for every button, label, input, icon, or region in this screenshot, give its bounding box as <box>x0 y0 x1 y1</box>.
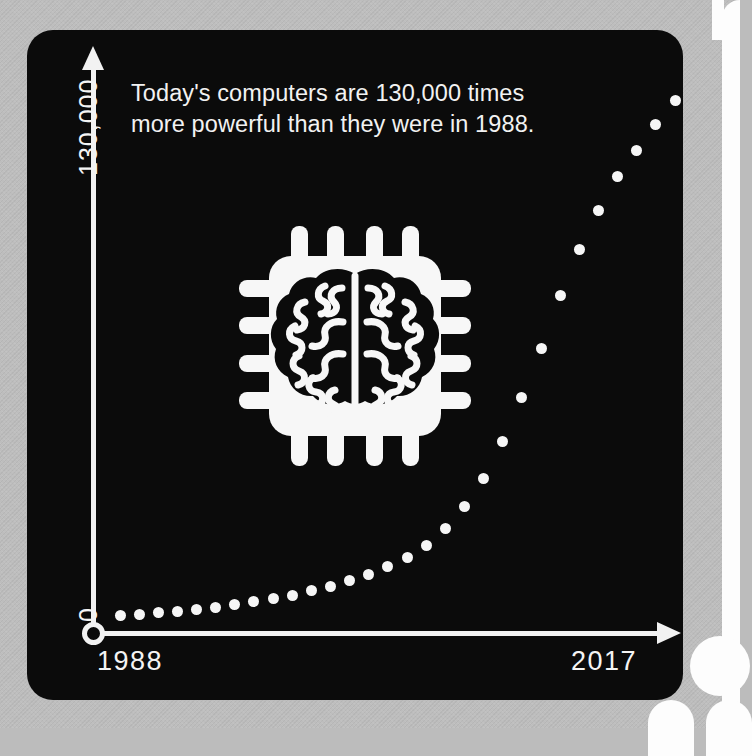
data-point <box>153 607 164 618</box>
decorative-blob-left <box>648 700 694 756</box>
data-point <box>612 171 623 182</box>
origin-circle-marker <box>82 622 105 645</box>
data-point <box>574 244 585 255</box>
data-point <box>497 436 508 447</box>
x-axis-end-label: 2017 <box>571 646 637 677</box>
data-point <box>593 205 604 216</box>
x-axis-line <box>93 631 665 636</box>
y-axis-arrow-icon <box>82 46 104 70</box>
data-point <box>115 610 126 621</box>
data-point <box>440 523 451 534</box>
headline-line-2: more powerful than they were in 1988. <box>131 109 571 140</box>
data-point <box>287 590 298 601</box>
data-point <box>478 473 489 484</box>
data-point <box>421 540 432 551</box>
decorative-blob-circle <box>690 636 750 696</box>
data-point <box>555 290 566 301</box>
brain-chip-icon <box>239 226 471 466</box>
data-point <box>363 569 374 580</box>
page-edge-decoration <box>722 0 740 728</box>
data-point <box>382 561 393 572</box>
chart-plot-area: 130,000 0 1988 2017 Today's computers ar… <box>27 30 683 700</box>
data-point <box>306 585 317 596</box>
data-point <box>650 119 661 130</box>
infographic-card: 130,000 0 1988 2017 Today's computers ar… <box>27 30 683 700</box>
y-axis-min-label: 0 <box>74 607 103 622</box>
data-point <box>229 599 240 610</box>
data-point <box>325 581 336 592</box>
data-point <box>536 343 547 354</box>
headline-line-1: Today's computers are 130,000 times <box>131 78 571 109</box>
headline-text: Today's computers are 130,000 times more… <box>131 78 571 141</box>
y-axis-max-label: 130,000 <box>74 79 103 176</box>
data-point <box>248 596 259 607</box>
data-point <box>670 95 681 106</box>
data-point <box>191 604 202 615</box>
data-point <box>402 552 413 563</box>
data-point <box>516 392 527 403</box>
data-point <box>210 602 221 613</box>
x-axis-start-label: 1988 <box>97 646 163 677</box>
data-point <box>459 501 470 512</box>
decorative-blob-right <box>706 700 752 756</box>
data-point <box>172 606 183 617</box>
data-point <box>344 575 355 586</box>
data-point <box>134 609 145 620</box>
data-point <box>268 593 279 604</box>
data-point <box>631 145 642 156</box>
x-axis-arrow-icon <box>657 622 681 644</box>
